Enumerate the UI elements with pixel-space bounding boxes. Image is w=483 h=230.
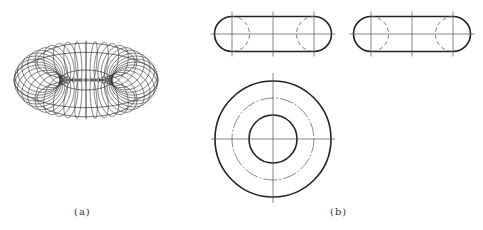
side-view bbox=[350, 12, 475, 57]
torus-meridian bbox=[94, 78, 108, 118]
caption-a: (a) bbox=[74, 206, 91, 217]
front-view bbox=[211, 12, 336, 57]
torus-meridian bbox=[64, 78, 78, 118]
top-view bbox=[211, 73, 335, 203]
torus-meridian bbox=[75, 79, 82, 119]
torus-wireframe bbox=[14, 41, 158, 119]
torus-meridian bbox=[94, 42, 108, 82]
torus-meridian bbox=[90, 79, 97, 119]
torus-meridian bbox=[64, 42, 78, 82]
torus-meridian bbox=[90, 41, 97, 81]
caption-b: (b) bbox=[330, 206, 347, 217]
torus-meridian bbox=[75, 41, 82, 81]
figure-canvas bbox=[0, 0, 483, 230]
